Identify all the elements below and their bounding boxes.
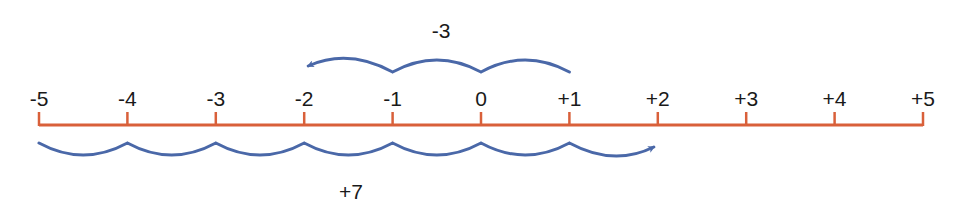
jump-plus-7-arc xyxy=(39,143,654,156)
tick-label: 0 xyxy=(475,87,487,110)
tick-label: +5 xyxy=(911,87,935,110)
tick-label: -5 xyxy=(30,87,49,110)
tick-label: +4 xyxy=(823,87,847,110)
number-line-diagram: -5-4-3-2-10+1+2+3+4+5 -3 +7 xyxy=(0,0,957,215)
jump-label-minus-3: -3 xyxy=(432,19,451,42)
jump-minus-3-arc xyxy=(308,58,569,72)
tick-label: +2 xyxy=(646,87,670,110)
tick-label: -3 xyxy=(206,87,225,110)
number-line-axis xyxy=(39,112,923,126)
tick-label: +3 xyxy=(734,87,758,110)
tick-label: -4 xyxy=(118,87,137,110)
jump-label-plus-7: +7 xyxy=(339,180,363,203)
tick-label: -1 xyxy=(383,87,402,110)
tick-label: +1 xyxy=(557,87,581,110)
tick-label: -2 xyxy=(295,87,314,110)
tick-labels: -5-4-3-2-10+1+2+3+4+5 xyxy=(30,87,935,110)
